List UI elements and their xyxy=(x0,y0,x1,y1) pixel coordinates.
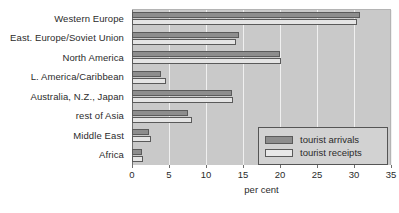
chart-legend: tourist arrivals tourist receipts xyxy=(258,127,388,165)
bar-group xyxy=(132,108,390,128)
bar-arrivals xyxy=(132,32,239,38)
x-tick-label-25: 25 xyxy=(312,169,323,180)
x-tick-label-20: 20 xyxy=(275,169,286,180)
bar-group xyxy=(132,10,390,30)
x-tick-label-10: 10 xyxy=(201,169,212,180)
bar-receipts xyxy=(132,97,233,103)
x-tick-label-15: 15 xyxy=(238,169,249,180)
bar-arrivals xyxy=(132,71,161,77)
bar-arrivals xyxy=(132,12,360,18)
x-tick-label-30: 30 xyxy=(349,169,360,180)
bar-group xyxy=(132,69,390,89)
x-tick-mark-25 xyxy=(317,165,318,168)
x-tick-label-0: 0 xyxy=(129,169,134,180)
bar-group xyxy=(132,30,390,50)
legend-swatch-receipts-icon xyxy=(265,149,293,157)
bar-arrivals xyxy=(132,110,188,116)
bar-receipts xyxy=(132,78,166,84)
bar-arrivals xyxy=(132,90,232,96)
x-tick-label-35: 35 xyxy=(386,169,397,180)
x-tick-mark-35 xyxy=(391,165,392,168)
x-tick-label-5: 5 xyxy=(166,169,171,180)
x-tick-mark-0 xyxy=(132,165,133,168)
bar-group xyxy=(132,88,390,108)
category-label: East. Europe/Soviet Union xyxy=(10,32,124,43)
category-label: L. America/Caribbean xyxy=(31,71,124,82)
bar-receipts xyxy=(132,117,192,123)
legend-label-receipts: tourist receipts xyxy=(300,147,362,158)
bar-receipts xyxy=(132,156,143,162)
bar-receipts xyxy=(132,136,151,142)
x-tick-mark-20 xyxy=(280,165,281,168)
legend-swatch-arrivals-icon xyxy=(265,136,293,144)
x-tick-mark-10 xyxy=(206,165,207,168)
legend-item-receipts: tourist receipts xyxy=(265,146,381,159)
category-label: rest of Asia xyxy=(76,110,124,121)
bar-receipts xyxy=(132,58,281,64)
category-label: North America xyxy=(63,52,125,63)
bar-group xyxy=(132,49,390,69)
bar-arrivals xyxy=(132,149,142,155)
x-tick-mark-30 xyxy=(354,165,355,168)
x-axis-title: per cent xyxy=(132,184,391,195)
category-label: Africa xyxy=(99,149,124,160)
category-label: Western Europe xyxy=(54,13,124,24)
category-label: Middle East xyxy=(73,130,124,141)
category-axis-labels: Western EuropeEast. Europe/Soviet UnionN… xyxy=(0,9,128,165)
legend-label-arrivals: tourist arrivals xyxy=(300,134,359,145)
bar-receipts xyxy=(132,19,357,25)
bar-arrivals xyxy=(132,129,149,135)
gridline-35 xyxy=(391,10,392,165)
x-tick-mark-5 xyxy=(169,165,170,168)
category-label: Australia, N.Z., Japan xyxy=(30,91,124,102)
bar-arrivals xyxy=(132,51,280,57)
tourism-share-bar-chart: Western EuropeEast. Europe/Soviet UnionN… xyxy=(0,0,399,213)
x-tick-mark-15 xyxy=(243,165,244,168)
legend-item-arrivals: tourist arrivals xyxy=(265,133,381,146)
bar-receipts xyxy=(132,39,236,45)
x-axis: 05101520253035 xyxy=(132,165,391,185)
